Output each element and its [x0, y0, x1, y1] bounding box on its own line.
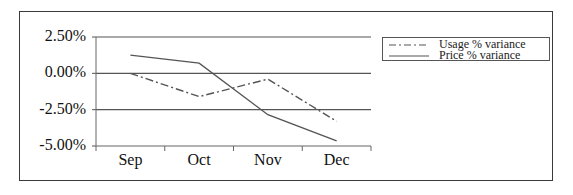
y-tick-label: 0.00%	[16, 63, 86, 81]
axes	[92, 37, 371, 151]
x-tick-label: Nov	[238, 151, 298, 169]
legend-label: Price % variance	[439, 48, 520, 63]
data-series	[130, 55, 336, 141]
y-tick-label: 2.50%	[16, 27, 86, 45]
series-line	[130, 73, 336, 121]
gridlines	[96, 37, 371, 110]
x-tick-label: Dec	[307, 151, 367, 169]
series-line	[130, 55, 336, 141]
y-tick-label: -5.00%	[16, 136, 86, 154]
solid-line-icon	[389, 50, 439, 62]
legend: Usage % variance Price % variance	[382, 37, 550, 61]
x-tick-label: Oct	[169, 151, 229, 169]
y-tick-label: -2.50%	[16, 100, 86, 118]
x-tick-label: Sep	[100, 151, 160, 169]
legend-item-price: Price % variance	[383, 50, 549, 62]
